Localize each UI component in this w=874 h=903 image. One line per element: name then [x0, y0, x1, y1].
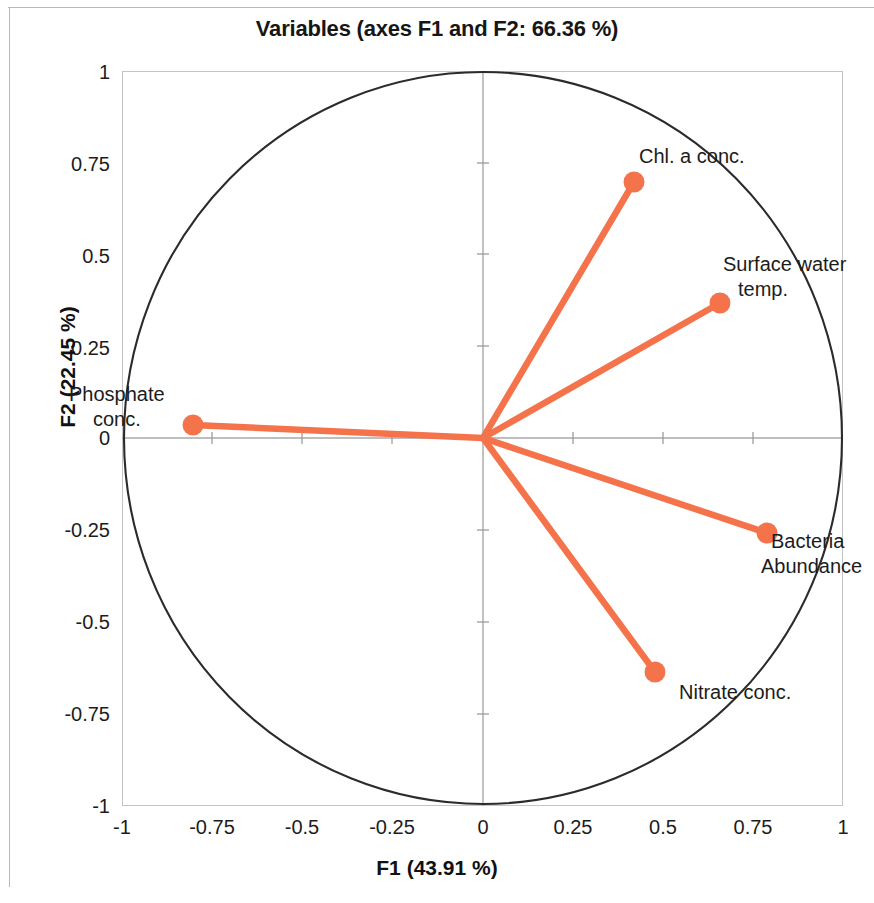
variable-vectors	[193, 182, 767, 672]
page-border-top	[8, 7, 874, 8]
marker-surface-water-temp	[710, 293, 731, 314]
x-tick-label-025: 0.25	[533, 816, 613, 839]
variable-label-surface-water-temp-line2: temp.	[738, 277, 788, 302]
y-tick-label-n1: -1	[18, 795, 110, 818]
x-tick-label-0: 0	[443, 816, 523, 839]
vector-phosphate	[193, 425, 483, 438]
y-axis-title: F2 (22.45 %)	[56, 257, 80, 477]
figure-root: Variables (axes F1 and F2: 66.36 %) 1 0.…	[0, 0, 874, 903]
y-tick-label-n025: -0.25	[18, 519, 110, 542]
y-tick-label-075: 0.75	[18, 153, 110, 176]
variable-label-chl-a: Chl. a conc.	[639, 144, 745, 169]
x-tick-label-n05: -0.5	[262, 816, 342, 839]
marker-phosphate	[183, 415, 204, 436]
x-tick-label-075: 0.75	[713, 816, 793, 839]
chart-title: Variables (axes F1 and F2: 66.36 %)	[0, 16, 874, 42]
variable-label-bacteria-line2: Abundance	[761, 554, 862, 579]
variable-label-phosphate-line2: conc.	[93, 407, 141, 432]
vector-chl-a	[483, 182, 634, 438]
variable-label-phosphate-line1: Phosphate	[69, 382, 165, 407]
x-tick-label-n025: -0.25	[352, 816, 432, 839]
marker-nitrate	[645, 662, 666, 683]
x-tick-label-1: 1	[803, 816, 874, 839]
x-tick-label-n075: -0.75	[172, 816, 252, 839]
variable-label-nitrate: Nitrate conc.	[679, 680, 791, 705]
vector-bacteria-abundance	[483, 438, 767, 533]
y-tick-label-n05: -0.5	[18, 611, 110, 634]
page-border-left	[9, 7, 10, 887]
y-tick-label-1: 1	[18, 61, 110, 84]
x-tick-label-05: 0.5	[623, 816, 703, 839]
x-axis-title: F1 (43.91 %)	[0, 856, 874, 880]
y-tick-label-n075: -0.75	[18, 703, 110, 726]
plot-area: Chl. a conc. Surface water temp. Bacteri…	[122, 71, 843, 806]
variable-label-bacteria-line1: Bacteria	[771, 529, 844, 554]
vector-nitrate	[483, 438, 655, 672]
variable-label-surface-water-temp-line1: Surface water	[723, 252, 846, 277]
vector-surface-water-temp	[483, 303, 720, 438]
x-tick-label-n1: -1	[82, 816, 162, 839]
marker-chl-a	[624, 172, 645, 193]
